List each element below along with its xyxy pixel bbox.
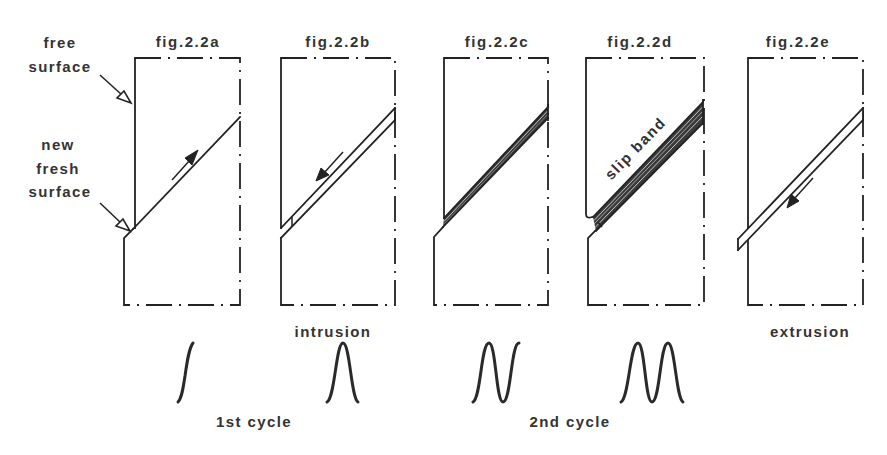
intrusion-label: intrusion bbox=[295, 323, 372, 340]
panel-title: fig.2.2d bbox=[607, 33, 672, 50]
panel-title: fig.2.2a bbox=[156, 33, 221, 50]
panel-title: fig.2.2b bbox=[305, 33, 370, 50]
second-cycle-label: 2nd cycle bbox=[530, 413, 611, 430]
extrusion-label: extrusion bbox=[770, 323, 850, 340]
panel-title: fig.2.2e bbox=[766, 33, 831, 50]
new-fresh-surface-label-line3: surface bbox=[28, 183, 91, 200]
new-fresh-surface-label-line1: new bbox=[41, 136, 74, 153]
first-cycle-label: 1st cycle bbox=[216, 413, 292, 430]
slip-band-diagram: free surface new fresh surface fig.2.2a … bbox=[0, 0, 887, 455]
new-fresh-surface-label-line2: fresh bbox=[36, 160, 80, 177]
free-surface-label-line2: surface bbox=[28, 58, 91, 75]
panel-title: fig.2.2c bbox=[465, 33, 530, 50]
free-surface-label-line1: free bbox=[43, 34, 76, 51]
